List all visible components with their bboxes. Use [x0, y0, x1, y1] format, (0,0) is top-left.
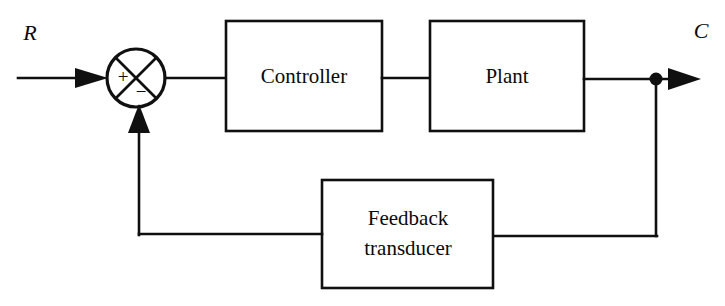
output-signal-wire	[584, 68, 701, 90]
input-signal-label: R	[22, 20, 37, 45]
summing-junction-minus-sign: −	[136, 81, 147, 102]
controller-block: Controller	[226, 21, 382, 131]
plant-block-label: Plant	[485, 64, 528, 88]
summing-junction-plus-sign: +	[118, 66, 129, 87]
feedback-transducer-label-line1: Feedback	[368, 206, 449, 230]
output-signal-label: C	[694, 18, 709, 43]
summing-junction: + −	[107, 49, 165, 107]
controller-block-label: Controller	[261, 64, 347, 88]
input-signal-wire	[18, 68, 108, 88]
block-diagram-canvas: R + − Controller Plant C	[0, 0, 725, 306]
feedback-transducer-block-rect	[322, 180, 493, 288]
plant-block: Plant	[430, 21, 584, 131]
feedback-transducer-label-line2: transducer	[364, 236, 451, 260]
input-arrow-head-icon	[75, 68, 108, 88]
output-arrow-head-icon	[668, 68, 701, 90]
block-diagram-svg: R + − Controller Plant C	[0, 0, 725, 306]
feedback-transducer-block: Feedback transducer	[322, 180, 493, 288]
feedback-arrow-head-icon	[128, 104, 150, 133]
